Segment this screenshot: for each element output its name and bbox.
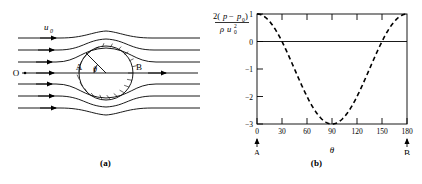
ylabel-denominator-u: u bbox=[227, 24, 231, 34]
ylabel-numerator-p0: p bbox=[236, 11, 241, 21]
y-tick-label-1: 1 bbox=[249, 10, 253, 19]
origin-dot bbox=[24, 72, 27, 75]
ylabel-numerator-p: p bbox=[222, 11, 227, 21]
panel-a-flow-diagram: θ O A B u 0 (a) bbox=[0, 0, 211, 184]
panel-b-pressure-chart: 2( p − p 0 ) ρ u 0 2 bbox=[211, 0, 422, 184]
ylabel-numerator-suffix: ) bbox=[245, 11, 248, 21]
freestream-velocity-label: u bbox=[44, 22, 49, 32]
ylabel-denominator-exponent: 2 bbox=[234, 23, 237, 29]
y-tick-label-m3: −3 bbox=[245, 120, 253, 129]
x-tick-label-30: 30 bbox=[278, 127, 286, 136]
x-axis-tick-labels: 0 30 60 90 120 150 180 bbox=[255, 127, 413, 136]
ylabel-denominator-subscript: 0 bbox=[234, 29, 237, 35]
angle-label: θ bbox=[93, 65, 97, 74]
x-tick-label-90: 90 bbox=[328, 127, 336, 136]
panel-a-caption: (a) bbox=[0, 158, 211, 168]
x-tick-label-120: 120 bbox=[351, 127, 363, 136]
flow-diagram-svg: θ O A B u 0 bbox=[0, 0, 211, 155]
cylinder-hatching bbox=[77, 43, 137, 99]
x-axis-label: θ bbox=[330, 145, 335, 155]
plot-frame bbox=[257, 14, 407, 124]
endpoint-label-b: B bbox=[404, 148, 410, 155]
figure-container: θ O A B u 0 (a) 2( p − p 0 ) ρ bbox=[0, 0, 422, 184]
pressure-chart-svg: 2( p − p 0 ) ρ u 0 2 bbox=[211, 0, 422, 155]
x-axis-ticks-top bbox=[282, 14, 382, 20]
origin-label: O bbox=[13, 68, 20, 78]
streamline-upper-3 bbox=[18, 31, 200, 38]
point-a-label: A bbox=[76, 62, 83, 72]
x-tick-label-180: 180 bbox=[401, 127, 413, 136]
y-axis-ticks bbox=[257, 14, 263, 124]
ylabel-numerator-prefix: 2( bbox=[213, 11, 220, 21]
freestream-velocity-subscript: 0 bbox=[50, 28, 53, 34]
panel-b-caption: (b) bbox=[211, 158, 422, 168]
streamline-lower-3 bbox=[18, 108, 200, 115]
pressure-coefficient-curve bbox=[257, 14, 407, 124]
point-b-label: B bbox=[136, 62, 142, 72]
y-tick-label-m2: −2 bbox=[245, 93, 253, 102]
ylabel-denominator-rho: ρ bbox=[219, 24, 224, 34]
x-tick-label-0: 0 bbox=[255, 127, 259, 136]
y-tick-label-0: 0 bbox=[249, 38, 253, 47]
y-axis-tick-labels: 1 0 −1 −2 −3 bbox=[245, 10, 253, 129]
x-tick-label-60: 60 bbox=[303, 127, 311, 136]
y-axis-label: 2( p − p 0 ) ρ u 0 2 bbox=[213, 11, 249, 35]
x-tick-label-150: 150 bbox=[376, 127, 388, 136]
y-tick-label-m1: −1 bbox=[245, 65, 253, 74]
endpoint-label-a: A bbox=[254, 148, 261, 155]
ylabel-numerator-minus: − bbox=[229, 11, 234, 21]
x-axis-ticks-bottom bbox=[257, 118, 407, 124]
